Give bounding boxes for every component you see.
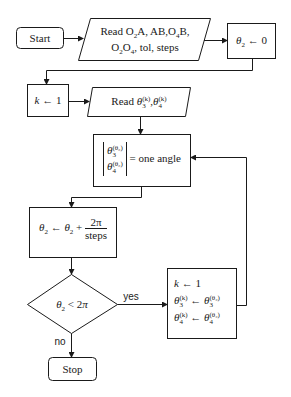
stop-label: Stop [48,363,97,375]
read-inputs-label: Read O2A, AB,O4B, O2O4, tol, steps [90,25,200,57]
start-label: Start [16,32,64,44]
read-guess-label: Read θ(k)3,θ(k)4 [90,95,188,110]
increment-label: θ2 ← θ2 + 2πsteps [29,216,117,241]
edge-theta2-k [47,59,253,85]
edge-solve-increment [72,187,142,208]
flowchart-canvas [0,0,291,397]
edge-label-no: no [52,336,68,347]
init-k-label: k ← 1 [27,94,69,106]
init-theta2-label: θ2 ← 0 [227,34,276,50]
decision-label: θ2 < 2π [27,298,117,314]
solve-label: θ(θ₂)3 θ(θ₂)4 = one angle [93,142,191,176]
edge-label-yes: yes [121,291,141,302]
update-label: k ← 1 θ(k)3 ← θ(θ₂)3 θ(k)4 ← θ(θ₂)4 [174,275,220,326]
